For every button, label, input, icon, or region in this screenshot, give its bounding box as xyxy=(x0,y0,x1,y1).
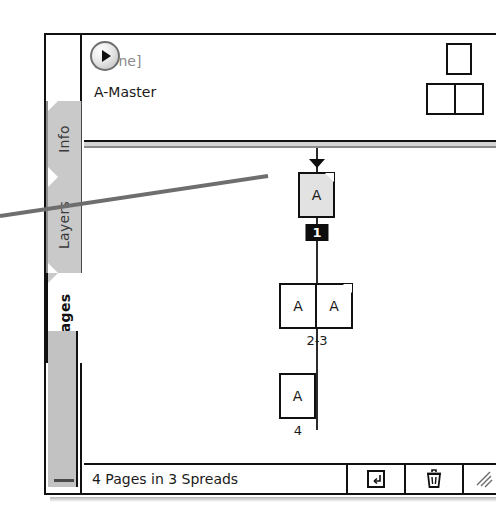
page-master-glyph: A xyxy=(300,187,333,203)
resize-grip-icon xyxy=(474,469,494,489)
tab-info-label: Info xyxy=(56,125,72,153)
panel-menu-triangle-icon xyxy=(102,50,111,62)
page-thumbnail[interactable]: A xyxy=(316,283,353,329)
tab-notch-bottom xyxy=(46,261,58,273)
screenshot-canvas: Info Layers Pages [None] xyxy=(0,0,500,524)
panel-splitter[interactable] xyxy=(84,140,500,148)
tab-layers[interactable]: Layers xyxy=(46,177,82,273)
page-number-badge: 1 xyxy=(305,224,328,241)
page-corner-fold-icon xyxy=(428,85,435,92)
page-number-label: 2-3 xyxy=(306,333,327,348)
pages-section: A 1 A A 2-3 xyxy=(84,148,500,461)
tab-notch-top xyxy=(46,177,58,189)
pages-panel: Info Layers Pages [None] xyxy=(44,33,500,495)
page-corner-fold-icon xyxy=(281,285,288,292)
page-corner-fold-icon xyxy=(325,173,334,182)
current-spread-marker-icon xyxy=(309,159,325,168)
master-thumbnails xyxy=(424,41,486,119)
new-page-button[interactable] xyxy=(348,465,406,493)
panel-resize-grip[interactable] xyxy=(54,479,74,482)
panel-tab-strip: Info Layers Pages xyxy=(46,35,82,493)
page-master-glyph: A xyxy=(317,298,351,314)
page-thumbnail[interactable]: A xyxy=(298,172,335,218)
panel-menu-button[interactable] xyxy=(90,41,120,71)
master-spread-right-page xyxy=(455,83,484,115)
delete-page-button[interactable] xyxy=(406,465,464,493)
page-corner-fold-icon xyxy=(281,375,288,382)
page-number-label: 4 xyxy=(294,423,302,438)
master-page-spread-icon[interactable] xyxy=(426,83,484,115)
page-master-glyph: A xyxy=(281,298,315,314)
panel-resize-handle[interactable] xyxy=(464,465,500,493)
trash-icon xyxy=(424,468,444,490)
tab-info[interactable]: Info xyxy=(46,101,82,177)
new-page-icon xyxy=(365,469,387,489)
panel-content: [None] A-Master xyxy=(84,35,500,493)
status-text: 4 Pages in 3 Spreads xyxy=(84,465,348,493)
page-corner-fold-icon xyxy=(475,85,482,92)
page-thumbnail[interactable]: A xyxy=(279,373,316,419)
master-spread-left-page xyxy=(426,83,455,115)
master-item-a-master[interactable]: A-Master xyxy=(94,80,156,104)
image-right-edge xyxy=(496,0,500,524)
panel-status-bar: 4 Pages in 3 Spreads xyxy=(84,463,500,493)
page-thumbnail[interactable]: A xyxy=(279,283,316,329)
page-corner-fold-icon xyxy=(343,284,352,293)
tab-strip-filler xyxy=(48,331,78,487)
page-master-glyph: A xyxy=(281,388,314,404)
tab-notch-bottom xyxy=(46,165,58,177)
tab-layers-label: Layers xyxy=(56,201,72,249)
master-item-a-master-label: A-Master xyxy=(94,84,156,100)
tab-notch-top xyxy=(46,101,58,113)
masters-section: [None] A-Master xyxy=(84,35,500,127)
master-page-single-icon[interactable] xyxy=(446,43,472,75)
panel-drop-shadow xyxy=(50,497,500,502)
tab-notch-top xyxy=(46,273,58,285)
